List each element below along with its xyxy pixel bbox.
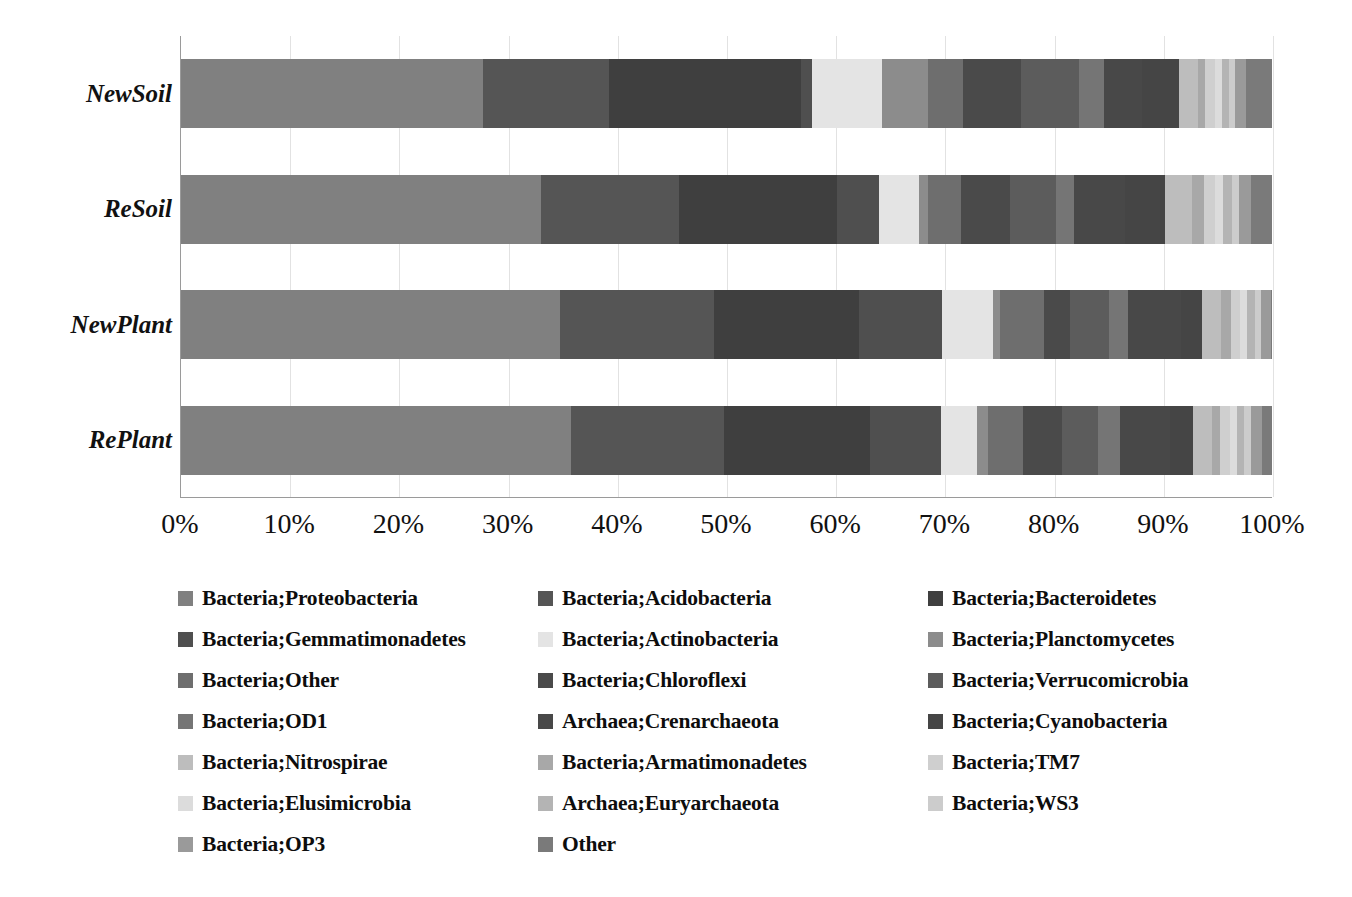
legend-label: Bacteria;Planctomycetes — [952, 627, 1174, 652]
bar-segment — [181, 59, 483, 128]
legend-label: Bacteria;Verrucomicrobia — [952, 668, 1188, 693]
legend-item[interactable]: Bacteria;Armatimonadetes — [538, 750, 928, 775]
bar-segment — [541, 175, 679, 244]
stacked-bar-chart: NewSoilReSoilNewPlantRePlant 0%10%20%30%… — [0, 0, 1352, 897]
bar-segment — [1128, 290, 1181, 359]
bar-segment — [961, 175, 1010, 244]
bar-segment — [1247, 290, 1256, 359]
legend-item[interactable]: Bacteria;Proteobacteria — [178, 586, 538, 611]
legend-label: Other — [562, 832, 616, 857]
x-axis-tick: 10% — [229, 508, 349, 540]
legend-label: Bacteria;Actinobacteria — [562, 627, 778, 652]
bar-segment — [724, 406, 870, 475]
bar-segment — [560, 290, 715, 359]
bar-segment — [859, 290, 941, 359]
bar-segment — [181, 175, 541, 244]
legend-swatch-icon — [538, 837, 553, 852]
bar-segment — [879, 175, 919, 244]
legend-item[interactable]: Bacteria;Elusimicrobia — [178, 791, 538, 816]
bar-segment — [977, 406, 988, 475]
legend-item[interactable]: Bacteria;Verrucomicrobia — [928, 668, 1308, 693]
legend-item[interactable]: Other — [538, 832, 928, 857]
legend-item[interactable]: Bacteria;Actinobacteria — [538, 627, 928, 652]
x-axis-tick: 40% — [557, 508, 677, 540]
bar-segment — [181, 406, 571, 475]
bar-segment — [1212, 406, 1221, 475]
bar-segment — [679, 175, 837, 244]
bar-segment — [941, 406, 977, 475]
legend-item[interactable]: Bacteria;Bacteroidetes — [928, 586, 1308, 611]
bar-segment — [1192, 175, 1204, 244]
bar-segment — [1261, 290, 1271, 359]
bar-segment — [928, 59, 963, 128]
bar-segment — [1251, 175, 1272, 244]
legend-item[interactable]: Bacteria;WS3 — [928, 791, 1308, 816]
legend-item[interactable]: Bacteria;OD1 — [178, 709, 538, 734]
bar-segment — [1221, 290, 1231, 359]
legend-item[interactable]: Bacteria;Planctomycetes — [928, 627, 1308, 652]
bar-segment — [1251, 406, 1262, 475]
legend-swatch-icon — [178, 755, 193, 770]
bar-segment — [1023, 406, 1062, 475]
x-axis-tick: 0% — [120, 508, 240, 540]
bar-segment — [1198, 59, 1206, 128]
legend-swatch-icon — [928, 591, 943, 606]
bar-segment — [1202, 290, 1222, 359]
legend-item[interactable]: Archaea;Euryarchaeota — [538, 791, 928, 816]
legend-label: Bacteria;Nitrospirae — [202, 750, 387, 775]
bar-row — [181, 406, 1272, 475]
bar-segment — [870, 406, 941, 475]
gridline — [1273, 36, 1274, 497]
legend-item[interactable]: Bacteria;Other — [178, 668, 538, 693]
x-axis-tick: 70% — [884, 508, 1004, 540]
legend-swatch-icon — [178, 632, 193, 647]
bar-segment — [1271, 290, 1272, 359]
bar-segment — [1239, 175, 1251, 244]
legend-item[interactable]: Bacteria;OP3 — [178, 832, 538, 857]
y-axis-label-newsoil: NewSoil — [0, 81, 172, 106]
legend-swatch-icon — [928, 714, 943, 729]
bar-segment — [837, 175, 878, 244]
bar-segment — [181, 290, 560, 359]
legend-item[interactable]: Bacteria;Gemmatimonadetes — [178, 627, 538, 652]
bar-segment — [1109, 290, 1128, 359]
x-axis-tick: 30% — [448, 508, 568, 540]
legend-label: Bacteria;Cyanobacteria — [952, 709, 1167, 734]
legend-label: Bacteria;Other — [202, 668, 339, 693]
bar-segment — [714, 290, 859, 359]
bar-segment — [882, 59, 928, 128]
bar-segment — [1104, 59, 1142, 128]
legend-swatch-icon — [538, 632, 553, 647]
bar-segment — [1181, 290, 1202, 359]
bar-row — [181, 59, 1272, 128]
bar-segment — [1205, 59, 1215, 128]
bar-segment — [1179, 59, 1198, 128]
bar-segment — [1079, 59, 1104, 128]
legend-item[interactable]: Bacteria;Cyanobacteria — [928, 709, 1308, 734]
legend-item[interactable]: Bacteria;Nitrospirae — [178, 750, 538, 775]
bar-segment — [919, 175, 928, 244]
legend-swatch-icon — [928, 673, 943, 688]
legend-item[interactable]: Bacteria;Chloroflexi — [538, 668, 928, 693]
legend-label: Bacteria;Chloroflexi — [562, 668, 746, 693]
y-axis-label-newplant: NewPlant — [0, 312, 172, 337]
legend-swatch-icon — [538, 673, 553, 688]
bar-segment — [1231, 290, 1240, 359]
legend-item[interactable]: Bacteria;TM7 — [928, 750, 1308, 775]
bar-segment — [1044, 290, 1070, 359]
bar-row — [181, 290, 1272, 359]
bar-segment — [1062, 406, 1098, 475]
bar-segment — [1125, 175, 1164, 244]
bar-segment — [1000, 290, 1044, 359]
legend-item[interactable]: Archaea;Crenarchaeota — [538, 709, 928, 734]
bar-segment — [1222, 59, 1230, 128]
legend-swatch-icon — [928, 632, 943, 647]
legend-label: Bacteria;Gemmatimonadetes — [202, 627, 466, 652]
legend-item[interactable]: Bacteria;Acidobacteria — [538, 586, 928, 611]
bar-segment — [812, 59, 882, 128]
legend-swatch-icon — [928, 755, 943, 770]
bar-segment — [1235, 59, 1246, 128]
legend-swatch-icon — [538, 755, 553, 770]
legend-swatch-icon — [538, 714, 553, 729]
legend-label: Bacteria;Proteobacteria — [202, 586, 418, 611]
